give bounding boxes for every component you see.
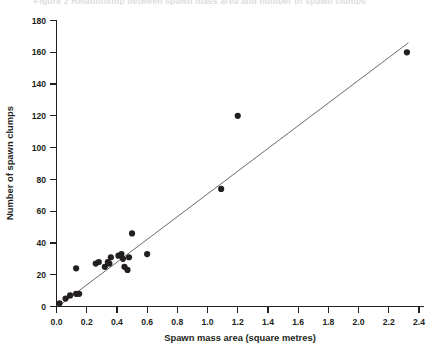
x-tick-label: 1.2 bbox=[232, 317, 244, 327]
y-tick-label: 20 bbox=[36, 270, 46, 280]
y-tick-label: 160 bbox=[32, 47, 47, 57]
data-point bbox=[96, 259, 102, 265]
x-tick-label: 2.0 bbox=[353, 317, 365, 327]
x-axis-ticks bbox=[57, 307, 420, 314]
data-point bbox=[126, 254, 132, 260]
data-point bbox=[404, 49, 410, 55]
x-tick-label: 1.4 bbox=[262, 317, 274, 327]
y-tick-label: 100 bbox=[32, 143, 47, 153]
data-point bbox=[73, 265, 79, 271]
regression-line bbox=[58, 43, 408, 307]
y-tick-label: 180 bbox=[32, 16, 47, 26]
y-tick-label: 120 bbox=[32, 111, 47, 121]
y-tick-label: 0 bbox=[41, 302, 46, 312]
data-point bbox=[235, 113, 241, 119]
x-tick-label: 0.4 bbox=[111, 317, 123, 327]
y-axis-title: Number of spawn clumps bbox=[4, 106, 15, 220]
x-tick-label: 0.6 bbox=[141, 317, 153, 327]
data-point bbox=[124, 267, 130, 273]
x-tick-label: 2.2 bbox=[383, 317, 395, 327]
x-tick-label: 0.8 bbox=[171, 317, 183, 327]
y-tick-label: 80 bbox=[36, 175, 46, 185]
y-tick-label: 60 bbox=[36, 206, 46, 216]
data-point bbox=[56, 300, 62, 306]
plot-canvas: 020406080100120140160180 0.00.20.40.60.8… bbox=[0, 0, 438, 354]
x-tick-label: 0.0 bbox=[51, 317, 63, 327]
y-axis-tick-labels: 020406080100120140160180 bbox=[32, 16, 47, 312]
data-point bbox=[67, 292, 73, 298]
data-point bbox=[76, 291, 82, 297]
y-axis-ticks bbox=[50, 21, 57, 307]
data-point bbox=[129, 230, 135, 236]
x-tick-label: 1.8 bbox=[322, 317, 334, 327]
x-axis-tick-labels: 0.00.20.40.60.81.01.21.41.61.82.02.22.4 bbox=[51, 317, 426, 327]
x-tick-label: 1.6 bbox=[292, 317, 304, 327]
data-point bbox=[108, 254, 114, 260]
x-axis-title: Spawn mass area (square metres) bbox=[164, 332, 316, 343]
y-tick-label: 140 bbox=[32, 79, 47, 89]
data-point bbox=[106, 261, 112, 267]
data-point bbox=[120, 256, 126, 262]
data-point bbox=[144, 251, 150, 257]
x-tick-label: 2.4 bbox=[413, 317, 425, 327]
x-tick-label: 0.2 bbox=[81, 317, 93, 327]
x-tick-label: 1.0 bbox=[202, 317, 214, 327]
y-tick-label: 40 bbox=[36, 238, 46, 248]
scatter-chart: Figure 2 Relationship between spawn mass… bbox=[0, 0, 438, 354]
data-point bbox=[218, 186, 224, 192]
